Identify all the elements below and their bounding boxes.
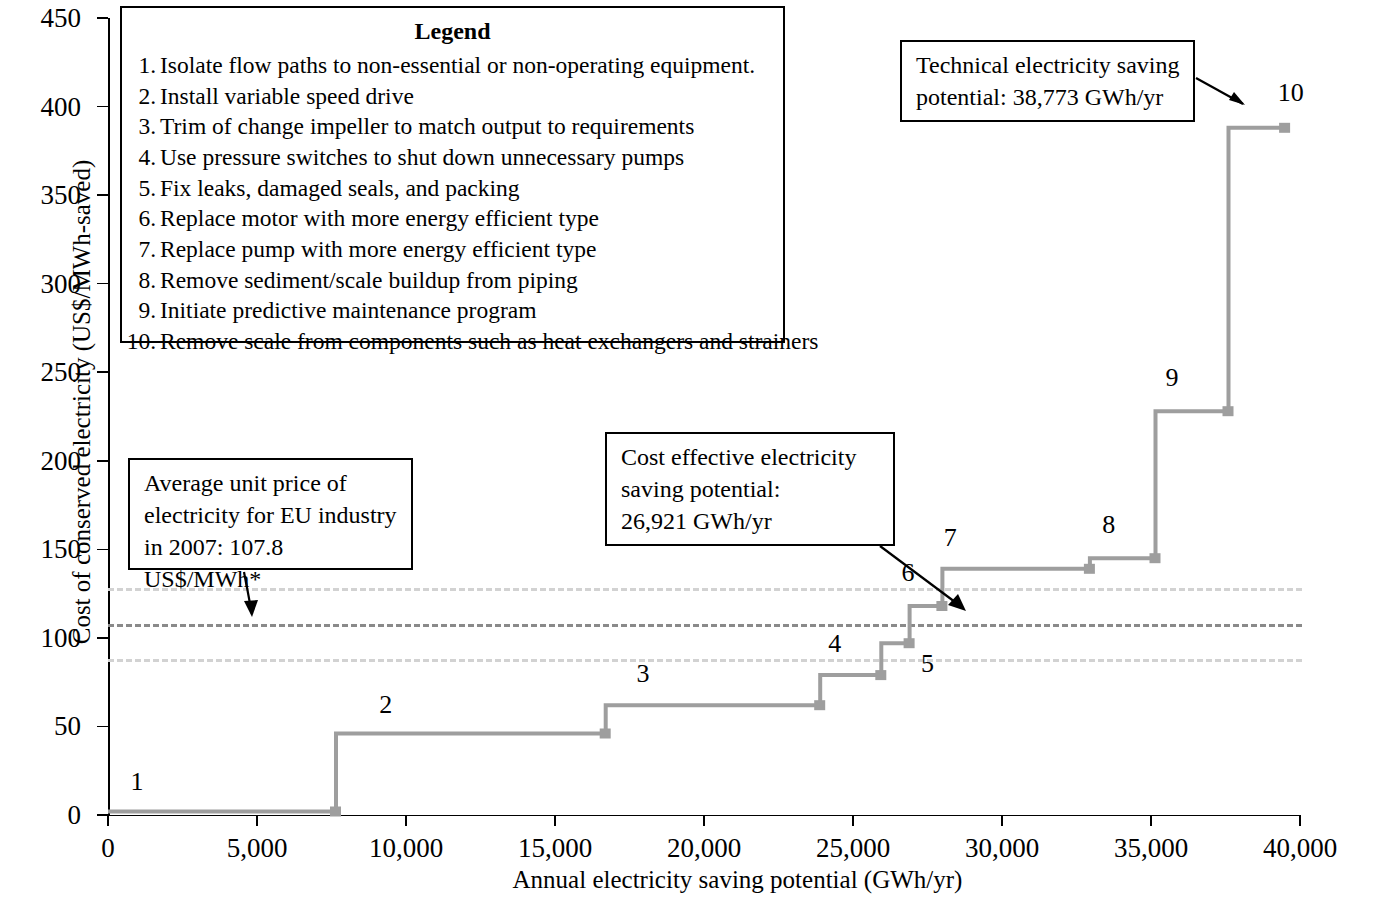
data-point-marker (875, 670, 886, 680)
legend-item: 4. Use pressure switches to shut down un… (122, 142, 783, 173)
step-label-10: 10 (1261, 80, 1321, 106)
legend-item-text: Fix leaks, damaged seals, and packing (160, 175, 520, 201)
legend-item: 1. Isolate flow paths to non-essential o… (122, 50, 783, 81)
arrowhead-cost-effective (948, 594, 966, 611)
legend-item-number: 6. (122, 203, 156, 234)
data-point-marker (814, 700, 825, 710)
legend-item-text: Use pressure switches to shut down unnec… (160, 144, 684, 170)
legend-item-text: Replace motor with more energy efficient… (160, 205, 599, 231)
legend-list: 1. Isolate flow paths to non-essential o… (122, 50, 783, 357)
legend-item-number: 2. (122, 81, 156, 112)
arrowhead-technical (1229, 92, 1245, 105)
legend-item-number: 1. (122, 50, 156, 81)
step-label-9: 9 (1142, 365, 1202, 391)
legend-item-number: 3. (122, 111, 156, 142)
callout-avg-line2: electricity for EU industry (144, 500, 399, 532)
step-label-8: 8 (1079, 512, 1139, 538)
data-point-marker (936, 601, 947, 611)
step-label-7: 7 (920, 525, 980, 551)
legend-item: 5. Fix leaks, damaged seals, and packing (122, 173, 783, 204)
callout-cost-line3: 26,921 GWh/yr (621, 506, 881, 538)
callout-technical-line2: potential: 38,773 GWh/yr (916, 82, 1181, 114)
step-label-1: 1 (107, 769, 167, 795)
data-point-marker (1084, 564, 1095, 574)
step-label-4: 4 (805, 631, 865, 657)
callout-technical-potential: Technical electricity saving potential: … (900, 40, 1195, 122)
callout-avg-line3: in 2007: 107.8 US$/MWh* (144, 532, 399, 596)
callout-cost-line2: saving potential: (621, 474, 881, 506)
step-label-2: 2 (356, 692, 416, 718)
step-label-5: 5 (897, 651, 957, 677)
legend-item-number: 9. (122, 295, 156, 326)
legend-item: 7. Replace pump with more energy efficie… (122, 234, 783, 265)
data-point-marker (1150, 553, 1161, 563)
legend-item-number: 4. (122, 142, 156, 173)
data-point-marker (600, 729, 611, 739)
step-label-6: 6 (878, 560, 938, 586)
legend-item-text: Remove scale from components such as hea… (160, 328, 818, 354)
legend-title: Legend (122, 16, 783, 46)
legend-item-text: Remove sediment/scale buildup from pipin… (160, 267, 578, 293)
step-label-3: 3 (613, 661, 673, 687)
legend-item-number: 5. (122, 173, 156, 204)
legend-item: 8. Remove sediment/scale buildup from pi… (122, 265, 783, 296)
legend-item: 9. Initiate predictive maintenance progr… (122, 295, 783, 326)
legend-box: Legend 1. Isolate flow paths to non-esse… (120, 6, 785, 343)
data-point-marker (1279, 123, 1290, 133)
callout-cost-effective-potential: Cost effective electricity saving potent… (605, 432, 895, 546)
callout-average-price: Average unit price of electricity for EU… (128, 458, 413, 570)
legend-item: 6. Replace motor with more energy effici… (122, 203, 783, 234)
legend-item-number: 8. (122, 265, 156, 296)
legend-item: 10. Remove scale from components such as… (122, 326, 783, 357)
data-point-marker (904, 638, 915, 648)
callout-technical-line1: Technical electricity saving (916, 50, 1181, 82)
callout-avg-line1: Average unit price of (144, 468, 399, 500)
legend-item-number: 7. (122, 234, 156, 265)
chart-canvas: 050100150200250300350400450 05,00010,000… (0, 0, 1375, 908)
legend-item-number: 10. (122, 326, 156, 357)
legend-item-text: Replace pump with more energy efficient … (160, 236, 596, 262)
data-point-marker (1223, 406, 1234, 416)
legend-item: 3. Trim of change impeller to match outp… (122, 111, 783, 142)
legend-item-text: Install variable speed drive (160, 83, 414, 109)
arrowhead-average-price (244, 600, 258, 617)
legend-item: 2. Install variable speed drive (122, 81, 783, 112)
data-point-marker (330, 807, 341, 817)
legend-item-text: Trim of change impeller to match output … (160, 113, 694, 139)
callout-cost-line1: Cost effective electricity (621, 442, 881, 474)
legend-item-text: Initiate predictive maintenance program (160, 297, 536, 323)
legend-item-text: Isolate flow paths to non-essential or n… (160, 52, 755, 78)
